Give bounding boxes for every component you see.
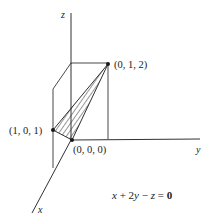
point-1-0-1-label: (1, 0, 1) [9,125,43,137]
plane-triangle [53,64,108,140]
point-0-1-2-label: (0, 1, 2) [114,59,148,71]
y-axis [71,139,200,140]
eq-minus: − [139,189,151,201]
plane-equation: x + 2y − z = 0 [111,189,173,201]
eq-plus: + 2 [117,189,134,201]
guide-z2-to-x [53,63,71,89]
plane-diagram: z y x (0, 0, 0) (1, 0, 1) (0, 1, 2) x + … [0,0,210,219]
point-dot-0-1-2 [106,62,110,66]
origin-label: (0, 0, 0) [73,144,107,156]
x-axis-label: x [37,204,43,215]
x-axis [32,140,71,213]
eq-equals: = [155,189,167,201]
eq-rhs: 0 [167,189,173,201]
z-axis-label: z [60,9,65,20]
y-axis-label: y [195,144,201,155]
point-dot-origin [70,138,74,142]
point-dot-1-0-1 [51,128,55,132]
